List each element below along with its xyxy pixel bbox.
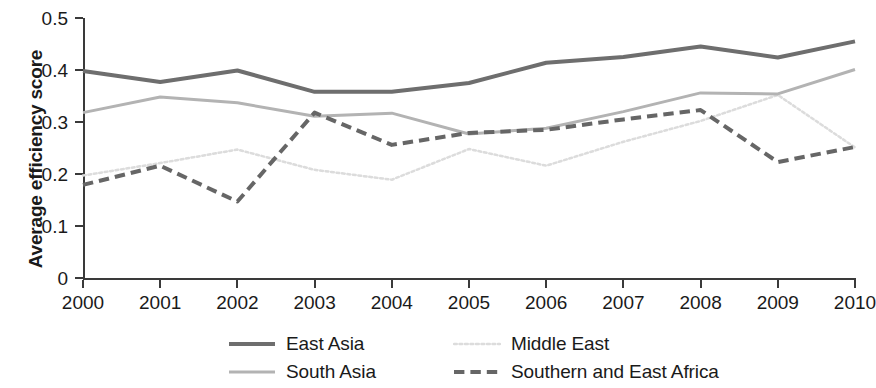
legend-item-middle-east: Middle East: [453, 333, 609, 355]
legend-swatch-middle-east: [453, 335, 501, 353]
legend-item-south-asia: South Asia: [228, 361, 453, 383]
legend-swatch-southern-east-africa: [453, 363, 501, 381]
line-chart: Average efficiency score 00.10.20.30.40.…: [0, 0, 876, 388]
legend-row-2: South Asia Southern and East Africa: [228, 358, 868, 386]
legend-row-1: East Asia Middle East: [228, 330, 868, 358]
series-line-east-asia: [83, 41, 855, 91]
legend-label-middle-east: Middle East: [511, 333, 609, 355]
legend-label-southern-east-africa: Southern and East Africa: [511, 361, 719, 383]
chart-legend: East Asia Middle East South Asia Souther…: [228, 330, 868, 386]
legend-item-southern-east-africa: Southern and East Africa: [453, 361, 719, 383]
legend-label-south-asia: South Asia: [286, 361, 376, 383]
legend-label-east-asia: East Asia: [286, 333, 364, 355]
legend-item-east-asia: East Asia: [228, 333, 453, 355]
series-line-south-asia: [83, 69, 855, 133]
legend-swatch-east-asia: [228, 335, 276, 353]
legend-swatch-south-asia: [228, 363, 276, 381]
